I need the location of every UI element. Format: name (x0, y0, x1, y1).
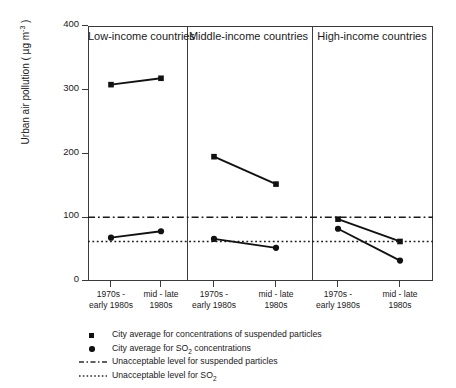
dash-dot-line-icon (78, 355, 108, 369)
x-tick-line2: 1980s (264, 300, 287, 310)
chart-legend: City average for concentrations of suspe… (78, 328, 408, 382)
y-axis-title-tail: ) (20, 20, 31, 26)
plot-area (88, 26, 433, 281)
chart-figure: Urban air pollution ( µg m-3 ) 400 300 2… (0, 0, 456, 388)
x-tick-line2: early 1980s (316, 300, 360, 310)
y-tick-label-300: 300 (63, 83, 79, 93)
legend-label: City average for concentrations of suspe… (112, 328, 322, 342)
x-tick-mark (399, 281, 400, 287)
legend-label-text: Unacceptable level for suspended particl… (112, 356, 278, 366)
legend-row-so2: City average for SO2 concentrations (78, 342, 408, 356)
x-tick-label: mid - late1980s (355, 289, 445, 310)
y-axis-title-exponent: -3 (19, 26, 26, 32)
x-tick-line1: 1970s - (324, 289, 352, 299)
legend-label-text: City average for SO (112, 343, 188, 353)
x-tick-mark (160, 281, 161, 287)
y-tick-label-400: 400 (63, 19, 79, 29)
legend-label-text: Unacceptable level for SO (112, 370, 213, 380)
legend-row-unacceptable-particles: Unacceptable level for suspended particl… (78, 355, 408, 369)
legend-row-suspended-particles: City average for concentrations of suspe… (78, 328, 408, 342)
square-marker-icon (78, 328, 108, 342)
panel-title-middle-income: Middle-income countries (186, 30, 311, 42)
x-tick-mark (213, 281, 214, 287)
x-tick-mark (337, 281, 338, 287)
x-tick-mark (110, 281, 111, 287)
legend-label-text-tail: concentrations (192, 343, 251, 353)
circle-marker-icon (78, 342, 108, 356)
y-axis-title-head: Urban air pollution ( µg m (20, 32, 31, 144)
y-axis-title: Urban air pollution ( µg m-3 ) (19, 0, 35, 187)
y-tick-label-0: 0 (74, 274, 79, 284)
x-tick-line2: 1980s (388, 300, 411, 310)
legend-label: Unacceptable level for suspended particl… (112, 355, 278, 369)
x-tick-mark (275, 281, 276, 287)
legend-row-unacceptable-so2: Unacceptable level for SO2 (78, 369, 408, 383)
y-tick-label-100: 100 (63, 210, 79, 220)
panel-divider-1 (187, 27, 188, 280)
panel-divider-2 (312, 27, 313, 280)
y-tick-label-200: 200 (63, 147, 79, 157)
panel-title-high-income: High-income countries (311, 30, 433, 42)
legend-label-subscript: 2 (213, 374, 217, 381)
x-tick-line1: mid - late (259, 289, 294, 299)
dotted-line-icon (78, 369, 108, 383)
x-tick-line1: mid - late (383, 289, 418, 299)
legend-label: Unacceptable level for SO2 (112, 369, 217, 385)
legend-label-text: City average for concentrations of suspe… (112, 329, 322, 339)
panel-title-low-income: Low-income countries (88, 30, 186, 42)
x-tick-line1: 1970s - (200, 289, 228, 299)
x-tick-line2: early 1980s (192, 300, 236, 310)
